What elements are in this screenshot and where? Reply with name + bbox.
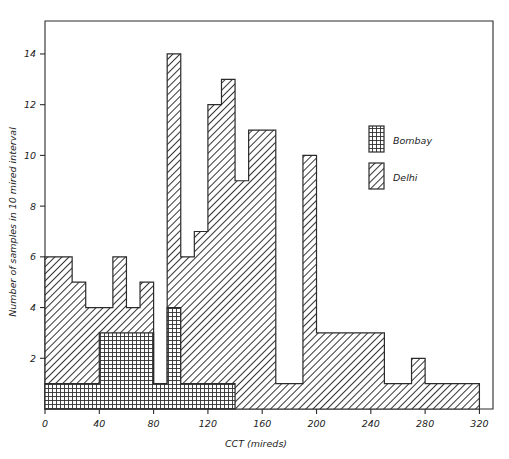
y-tick-label: 14 xyxy=(24,48,36,59)
x-axis-title: CCT (mireds) xyxy=(225,438,287,449)
y-axis-title: Number of samples in 10 mired interval xyxy=(7,127,18,317)
legend-label-delhi: Delhi xyxy=(393,172,418,183)
x-tick-label: 240 xyxy=(362,418,380,429)
legend: Bombay Delhi xyxy=(369,126,432,189)
x-tick-label: 280 xyxy=(416,418,434,429)
y-tick-label: 6 xyxy=(30,251,36,262)
y-tick-label: 12 xyxy=(24,99,36,110)
y-tick-label: 8 xyxy=(30,201,36,212)
legend-swatch-bombay xyxy=(369,126,384,152)
histogram-chart: 040801201602002402803202468101214 Bombay… xyxy=(0,0,509,459)
x-tick-label: 0 xyxy=(42,418,48,429)
x-tick-label: 80 xyxy=(148,418,160,429)
legend-label-bombay: Bombay xyxy=(393,135,432,146)
legend-swatch-delhi xyxy=(369,163,384,189)
y-tick-label: 4 xyxy=(30,302,36,313)
y-tick-label: 10 xyxy=(24,150,36,161)
x-tick-label: 40 xyxy=(93,418,105,429)
x-tick-label: 160 xyxy=(253,418,271,429)
x-tick-label: 120 xyxy=(199,418,217,429)
y-tick-label: 2 xyxy=(30,353,36,364)
figure-root: 040801201602002402803202468101214 Bombay… xyxy=(0,0,509,459)
x-tick-label: 200 xyxy=(307,418,325,429)
x-tick-label: 320 xyxy=(470,418,488,429)
